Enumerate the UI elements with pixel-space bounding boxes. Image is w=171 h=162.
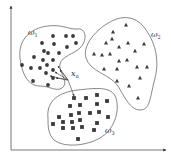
square-point — [61, 120, 65, 124]
class-label-2: ω2 — [151, 30, 161, 40]
circle-point — [74, 41, 78, 45]
circle-point — [40, 41, 44, 45]
circle-point — [31, 79, 35, 83]
square-point — [77, 111, 81, 115]
square-point — [70, 120, 74, 124]
square-point — [57, 115, 61, 119]
circle-point — [44, 71, 48, 75]
circle-point — [51, 58, 55, 62]
square-point — [61, 126, 65, 130]
circle-point — [64, 34, 68, 38]
triangle-point — [110, 37, 114, 41]
square-point — [68, 104, 72, 108]
circle-point — [45, 63, 49, 67]
square-point — [71, 126, 75, 130]
circle-point — [41, 58, 45, 62]
circle-point — [51, 34, 55, 38]
triangle-point — [145, 65, 149, 69]
triangle-point — [135, 65, 139, 69]
circle-point — [52, 42, 56, 46]
square-point — [78, 118, 82, 122]
circle-point — [38, 66, 42, 70]
triangle-point — [115, 79, 119, 83]
square-point — [72, 96, 76, 100]
triangle-point — [126, 41, 130, 45]
square-point — [95, 121, 99, 125]
triangle-point — [117, 59, 121, 63]
square-point — [106, 115, 110, 119]
triangle-point — [136, 96, 140, 100]
square-point — [76, 137, 80, 141]
circle-point — [71, 34, 75, 38]
square-point — [95, 93, 99, 97]
knn-diagram: ω1ω2ω3xn — [0, 0, 171, 162]
square-point — [69, 113, 73, 117]
triangle-point — [92, 52, 96, 56]
triangle-point — [104, 41, 108, 45]
circle-point — [20, 63, 24, 67]
triangle-point — [142, 42, 146, 46]
triangle-point — [127, 84, 131, 88]
class-boundaries — [20, 18, 157, 145]
circle-point — [42, 49, 46, 53]
square-point — [88, 111, 92, 115]
square-point — [95, 102, 99, 106]
triangle-point — [111, 30, 115, 34]
triangle-point — [133, 49, 137, 53]
circle-point — [46, 51, 50, 55]
class-label-1: ω1 — [28, 28, 38, 38]
triangle-point — [117, 45, 121, 49]
square-point — [84, 96, 88, 100]
neighbor-arrow — [68, 80, 74, 96]
square-point — [80, 125, 84, 129]
class-label-3: ω3 — [105, 126, 115, 136]
triangle-point — [100, 53, 104, 57]
circle-point — [46, 83, 50, 87]
triangle-point — [108, 52, 112, 56]
query-point-label: xn — [71, 69, 80, 79]
circle-point — [32, 55, 36, 59]
triangle-point — [138, 76, 142, 80]
square-point — [92, 128, 96, 132]
circle-point — [29, 66, 33, 70]
circle-point — [57, 51, 61, 55]
square-point — [78, 103, 82, 107]
square-point — [105, 99, 109, 103]
square-point — [97, 110, 101, 114]
triangle-point — [115, 67, 119, 71]
triangle-point — [124, 23, 128, 27]
triangle-point — [125, 58, 129, 62]
circle-point — [51, 68, 55, 72]
square-point — [51, 122, 55, 126]
circle-point — [65, 45, 69, 49]
triangle-point — [102, 67, 106, 71]
